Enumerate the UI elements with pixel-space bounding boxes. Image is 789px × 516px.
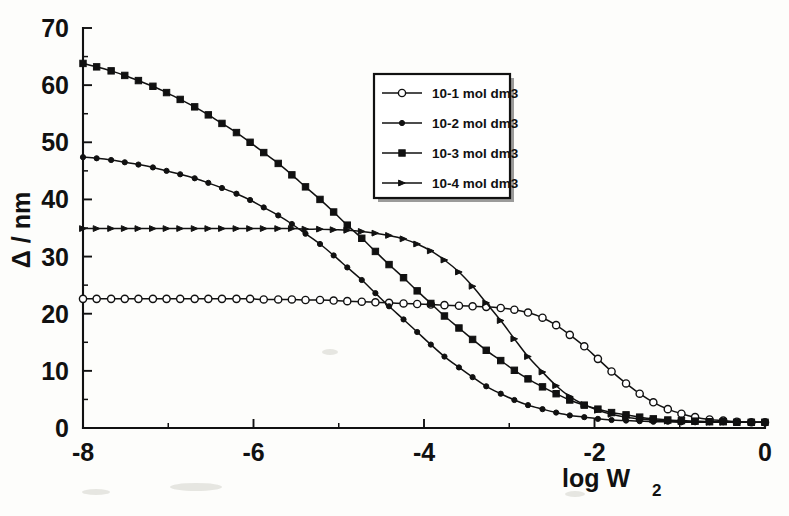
- data-point: [345, 265, 350, 270]
- y-tick-label: 50: [41, 128, 69, 156]
- data-point: [191, 104, 197, 110]
- x-tick-label: -4: [413, 438, 435, 466]
- data-point: [275, 296, 282, 303]
- figure-container: -8-6-4-20 010203040506070 Δ / nm log W 2…: [0, 0, 789, 516]
- x-axis-title-subscript: 2: [652, 481, 661, 500]
- data-point: [581, 343, 588, 350]
- data-point: [191, 226, 198, 232]
- series-1: [79, 295, 768, 426]
- data-point: [414, 288, 420, 294]
- data-point: [206, 180, 211, 185]
- data-point: [80, 60, 86, 66]
- data-point: [622, 380, 629, 387]
- data-point: [261, 149, 267, 155]
- data-point: [540, 407, 545, 412]
- data-point: [218, 295, 225, 302]
- data-point: [498, 357, 504, 363]
- data-point: [219, 120, 225, 126]
- legend-label: 10-3 mol dm3: [432, 146, 519, 161]
- data-point: [678, 410, 685, 417]
- data-point: [191, 295, 198, 302]
- x-axis-title: log W: [562, 464, 630, 492]
- data-point: [386, 233, 393, 239]
- y-tick-label: 10: [41, 357, 69, 385]
- series-4: [80, 226, 769, 426]
- data-point: [330, 297, 337, 304]
- data-point: [316, 296, 323, 303]
- data-point: [219, 185, 224, 190]
- data-point: [469, 303, 476, 310]
- data-point: [79, 295, 86, 302]
- data-point: [93, 226, 100, 232]
- data-point: [94, 156, 99, 161]
- data-point: [177, 96, 183, 102]
- data-point: [400, 275, 406, 281]
- data-point: [539, 314, 546, 321]
- data-point: [150, 83, 156, 89]
- data-point: [205, 112, 211, 118]
- data-point: [498, 391, 503, 396]
- data-point: [317, 241, 322, 246]
- data-point: [664, 406, 671, 413]
- data-point: [177, 295, 184, 302]
- data-point: [456, 325, 462, 331]
- data-point: [302, 296, 309, 303]
- data-point: [192, 176, 197, 181]
- y-tick-label: 40: [41, 185, 69, 213]
- data-point: [358, 298, 365, 305]
- data-point: [483, 347, 489, 353]
- data-point: [372, 299, 379, 306]
- data-point: [595, 416, 600, 421]
- data-point: [122, 72, 128, 78]
- data-point: [553, 322, 560, 329]
- data-point: [400, 300, 407, 307]
- data-point: [108, 226, 115, 232]
- data-point: [205, 295, 212, 302]
- data-point: [456, 365, 461, 370]
- y-tick-label: 0: [55, 414, 69, 442]
- x-tick-label: -6: [242, 438, 264, 466]
- data-point: [121, 226, 128, 232]
- data-point: [400, 236, 407, 242]
- data-point: [609, 417, 614, 422]
- legend-label: 10-1 mol dm3: [432, 86, 519, 101]
- data-point: [331, 253, 336, 258]
- y-tick-label: 30: [41, 243, 69, 271]
- data-point: [150, 226, 157, 232]
- data-point: [359, 235, 365, 241]
- y-tick-label: 20: [41, 300, 69, 328]
- data-point: [524, 309, 531, 316]
- data-point: [163, 226, 170, 232]
- data-point: [219, 226, 226, 232]
- data-point: [135, 77, 141, 83]
- data-point: [289, 172, 295, 178]
- data-point: [414, 300, 421, 307]
- y-tick-label: 70: [41, 14, 69, 42]
- y-tick-labels: 010203040506070: [41, 14, 69, 442]
- data-point: [608, 368, 615, 375]
- data-point: [566, 331, 573, 338]
- data-point: [484, 384, 489, 389]
- data-point: [511, 367, 517, 373]
- x-tick-label: 0: [758, 438, 772, 466]
- data-point: [512, 397, 517, 402]
- legend-marker-open-circle: [398, 89, 405, 96]
- data-point: [358, 229, 365, 235]
- data-point: [234, 191, 239, 196]
- data-point: [428, 300, 434, 306]
- data-point: [247, 197, 252, 202]
- data-point: [525, 403, 530, 408]
- x-tick-label: -8: [72, 438, 94, 466]
- data-point: [93, 64, 99, 70]
- data-point: [553, 391, 559, 397]
- data-point: [233, 226, 240, 232]
- data-point: [401, 317, 406, 322]
- data-point: [233, 129, 239, 135]
- data-point: [414, 241, 421, 247]
- data-point: [594, 355, 601, 362]
- series-line: [83, 299, 765, 423]
- y-tick-label: 60: [41, 71, 69, 99]
- data-point: [317, 226, 324, 232]
- data-point: [275, 160, 281, 166]
- data-point: [135, 295, 142, 302]
